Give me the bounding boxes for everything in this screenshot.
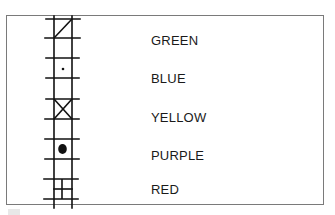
legend-label-green: GREEN <box>151 34 198 47</box>
legend-label-red: RED <box>151 183 179 196</box>
legend-label-blue: BLUE <box>151 72 186 85</box>
legend-label-purple: PURPLE <box>151 149 204 162</box>
x-cross-icon <box>54 99 72 119</box>
diagonal-slash-icon <box>54 19 72 38</box>
small-dot-icon <box>62 68 65 71</box>
cut-off-caption <box>8 209 20 215</box>
filled-circle-icon <box>58 144 67 154</box>
legend-label-yellow: YELLOW <box>151 111 206 124</box>
